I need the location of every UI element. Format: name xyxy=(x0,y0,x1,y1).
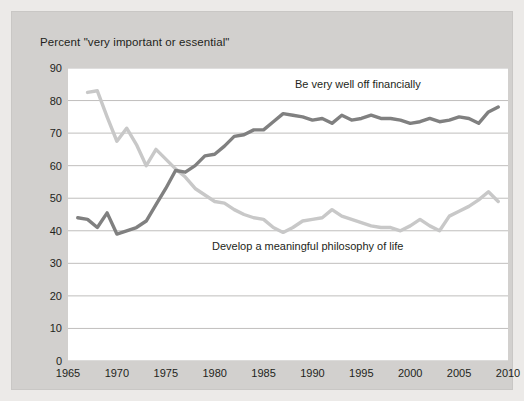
x-tick-label-1975: 1975 xyxy=(154,367,178,379)
x-axis: 1965197019751980198519901995200020052010 xyxy=(68,367,508,387)
series-label-be-very-well-off-financially: Be very well off financially xyxy=(295,78,421,90)
x-tick-label-2010: 2010 xyxy=(496,367,520,379)
x-tick-label-1995: 1995 xyxy=(349,367,373,379)
y-tick-label-40: 40 xyxy=(32,225,62,237)
y-axis: 0102030405060708090 xyxy=(30,68,62,361)
y-tick-label-10: 10 xyxy=(32,322,62,334)
series-paths xyxy=(78,91,498,234)
chart-page: Percent "very important or essential" 01… xyxy=(0,0,524,401)
y-tick-label-60: 60 xyxy=(32,160,62,172)
y-tick-label-20: 20 xyxy=(32,290,62,302)
gridlines xyxy=(68,68,508,361)
x-tick-label-1970: 1970 xyxy=(105,367,129,379)
x-tick-label-1985: 1985 xyxy=(251,367,275,379)
y-tick-label-90: 90 xyxy=(32,62,62,74)
x-tick-label-2005: 2005 xyxy=(447,367,471,379)
plot-svg xyxy=(68,68,508,361)
y-tick-label-30: 30 xyxy=(32,257,62,269)
x-tick-label-2000: 2000 xyxy=(398,367,422,379)
plot-area xyxy=(68,68,508,361)
y-tick-label-80: 80 xyxy=(32,95,62,107)
x-tick-label-1965: 1965 xyxy=(56,367,80,379)
series-line-be-very-well-off-financially xyxy=(78,107,498,234)
y-tick-label-70: 70 xyxy=(32,127,62,139)
y-tick-label-0: 0 xyxy=(32,355,62,367)
y-tick-label-50: 50 xyxy=(32,192,62,204)
series-line-develop-a-meaningful-philosophy-of-life xyxy=(88,91,499,233)
x-tick-label-1980: 1980 xyxy=(202,367,226,379)
x-tick-label-1990: 1990 xyxy=(300,367,324,379)
series-label-develop-a-meaningful-philosophy-of-life: Develop a meaningful philosophy of life xyxy=(212,240,403,252)
chart-title: Percent "very important or essential" xyxy=(40,36,230,48)
chart-panel: Percent "very important or essential" 01… xyxy=(11,11,513,390)
